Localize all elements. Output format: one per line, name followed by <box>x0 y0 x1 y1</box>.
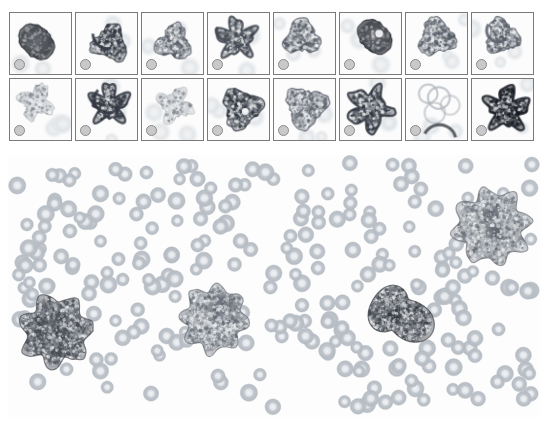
thumbnail-panel-5[interactable] <box>273 12 336 75</box>
scale-reference-circle <box>212 125 223 136</box>
scale-reference-circle <box>344 59 355 70</box>
scale-reference-circle <box>476 125 487 136</box>
thumbnail-panel-8[interactable] <box>471 12 534 75</box>
figure-root <box>0 0 548 430</box>
thumbnail-panel-7[interactable] <box>405 12 468 75</box>
thumbnail-panel-4[interactable] <box>207 12 270 75</box>
thumbnail-panel-10[interactable] <box>75 78 138 141</box>
scale-reference-circle <box>344 125 355 136</box>
thumbnail-panel-12[interactable] <box>207 78 270 141</box>
scale-reference-circle <box>80 125 91 136</box>
thumbnail-panel-6[interactable] <box>339 12 402 75</box>
thumbnail-row-2 <box>9 78 534 141</box>
scale-reference-circle <box>410 125 421 136</box>
scale-reference-circle <box>410 59 421 70</box>
scale-reference-circle <box>146 59 157 70</box>
thumbnail-panel-1[interactable] <box>9 12 72 75</box>
scale-reference-circle <box>278 125 289 136</box>
blood-smear-overview[interactable] <box>8 155 540 417</box>
scale-reference-circle <box>14 59 25 70</box>
scale-reference-circle <box>476 59 487 70</box>
thumbnail-panel-13[interactable] <box>273 78 336 141</box>
thumbnail-grid <box>9 12 539 141</box>
scale-reference-circle <box>146 125 157 136</box>
thumbnail-panel-15[interactable] <box>405 78 468 141</box>
scale-reference-circle <box>278 59 289 70</box>
thumbnail-panel-9[interactable] <box>9 78 72 141</box>
blood-smear-canvas <box>8 155 540 417</box>
thumbnail-panel-11[interactable] <box>141 78 204 141</box>
thumbnail-panel-14[interactable] <box>339 78 402 141</box>
thumbnail-row-1 <box>9 12 534 75</box>
scale-reference-circle <box>212 59 223 70</box>
thumbnail-panel-3[interactable] <box>141 12 204 75</box>
thumbnail-panel-16[interactable] <box>471 78 534 141</box>
scale-reference-circle <box>80 59 91 70</box>
thumbnail-panel-2[interactable] <box>75 12 138 75</box>
scale-reference-circle <box>14 125 25 136</box>
